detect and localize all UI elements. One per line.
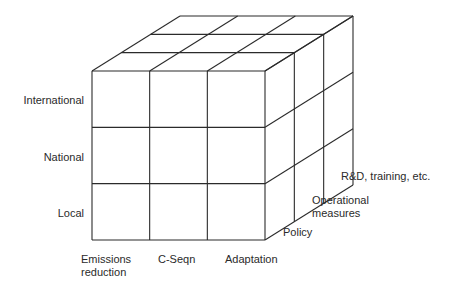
cube-diagram	[0, 0, 453, 293]
depth-label-operational-measures: Operational measures	[312, 194, 369, 220]
depth-label-policy: Policy	[283, 226, 312, 239]
depth-label-line1: R&D, training, etc.	[341, 170, 430, 183]
column-label-line2: reduction	[81, 266, 131, 279]
column-label-line1: C-Seqn	[158, 253, 195, 266]
column-label-emissions-reduction: Emissions reduction	[81, 253, 131, 279]
row-label-international: International	[0, 94, 84, 107]
column-label-line1: Emissions	[81, 253, 131, 266]
column-label-line1: Adaptation	[225, 253, 278, 266]
column-label-adaptation: Adaptation	[225, 253, 278, 266]
row-label-local: Local	[0, 207, 84, 220]
column-label-c-seqn: C-Seqn	[158, 253, 195, 266]
depth-label-line1: Policy	[283, 226, 312, 239]
depth-label-line1: Operational	[312, 194, 369, 207]
depth-label-line2: measures	[312, 207, 369, 220]
depth-label-rd-training: R&D, training, etc.	[341, 170, 430, 183]
row-label-national: National	[0, 151, 84, 164]
